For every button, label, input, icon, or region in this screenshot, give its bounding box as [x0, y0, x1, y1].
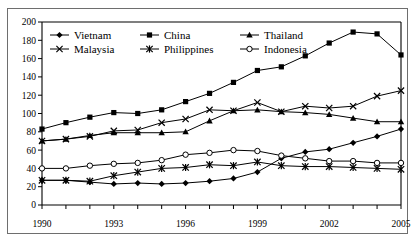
data-point-cross-x-marker: [254, 99, 260, 105]
legend-label-indonesia: Indonesia: [264, 43, 307, 55]
data-point-filled-diamond-marker: [302, 149, 308, 155]
legend-item-indonesia: Indonesia: [240, 43, 307, 55]
y-tick-label: 160: [22, 54, 37, 64]
series-line-vietnam: [42, 129, 401, 184]
y-tick-label: 0: [31, 200, 36, 210]
data-point-filled-square-marker: [374, 31, 379, 36]
data-point-filled-square-marker: [327, 40, 332, 45]
legend-label-thailand: Thailand: [264, 29, 304, 41]
data-point-filled-diamond-marker: [159, 181, 165, 187]
data-point-open-circle-marker: [350, 158, 355, 163]
y-tick-label: 120: [22, 91, 37, 101]
legend-item-malaysia: Malaysia: [50, 43, 114, 55]
data-point-filled-diamond-marker: [183, 180, 189, 186]
legend-item-thailand: Thailand: [240, 29, 304, 41]
data-point-filled-diamond-marker: [326, 146, 332, 152]
legend-item-vietnam: Vietnam: [50, 29, 112, 41]
series-philippines: [39, 158, 404, 184]
data-point-filled-square-marker: [147, 32, 152, 37]
data-point-open-circle-marker: [255, 148, 260, 153]
data-point-filled-triangle-marker: [206, 118, 212, 124]
series-thailand: [39, 107, 404, 144]
data-point-open-circle-marker: [183, 152, 188, 157]
y-tick-label: 60: [27, 146, 37, 156]
data-point-filled-square-marker: [135, 111, 140, 116]
legend-label-malaysia: Malaysia: [74, 43, 114, 55]
legend-item-china: China: [140, 29, 190, 41]
data-point-open-circle-marker: [327, 158, 332, 163]
data-point-filled-square-marker: [231, 80, 236, 85]
data-point-filled-square-marker: [63, 120, 68, 125]
y-tick-label: 200: [22, 17, 37, 27]
y-tick-label: 100: [22, 109, 37, 119]
data-point-filled-diamond-marker: [254, 169, 260, 175]
line-chart: 0204060801001201401601802001990199319961…: [0, 0, 417, 242]
data-point-filled-square-marker: [39, 126, 44, 131]
data-point-filled-diamond-marker: [206, 178, 212, 184]
y-tick-label: 80: [27, 127, 37, 137]
x-tick-label: 1990: [33, 219, 52, 229]
data-point-filled-square-marker: [87, 115, 92, 120]
data-point-filled-diamond-marker: [56, 32, 62, 38]
data-point-filled-square-marker: [159, 107, 164, 112]
data-point-open-circle-marker: [247, 46, 252, 51]
data-point-open-circle-marker: [231, 147, 236, 152]
x-tick-label: 1996: [176, 219, 195, 229]
data-point-filled-square-marker: [279, 64, 284, 69]
data-point-open-circle-marker: [63, 166, 68, 171]
x-tick-label: 1993: [104, 219, 123, 229]
data-point-open-circle-marker: [279, 153, 284, 158]
data-point-open-circle-marker: [207, 150, 212, 155]
data-point-filled-square-marker: [398, 52, 403, 57]
data-point-filled-square-marker: [111, 110, 116, 115]
data-point-open-circle-marker: [303, 156, 308, 161]
legend-label-philippines: Philippines: [164, 43, 214, 55]
data-point-filled-diamond-marker: [111, 181, 117, 187]
data-point-open-circle-marker: [398, 160, 403, 165]
y-tick-label: 40: [27, 164, 37, 174]
chart-legend: VietnamChinaThailandMalaysiaPhilippinesI…: [50, 29, 307, 55]
legend-label-china: China: [164, 29, 190, 41]
legend-label-vietnam: Vietnam: [74, 29, 112, 41]
y-tick-label: 180: [22, 36, 37, 46]
data-point-filled-diamond-marker: [374, 133, 380, 139]
x-tick-label: 2005: [392, 219, 411, 229]
data-point-open-circle-marker: [87, 163, 92, 168]
data-point-filled-diamond-marker: [398, 126, 404, 132]
data-point-filled-diamond-marker: [350, 140, 356, 146]
data-point-open-circle-marker: [374, 160, 379, 165]
legend-item-philippines: Philippines: [140, 43, 214, 55]
data-point-filled-square-marker: [183, 99, 188, 104]
chart-svg: 0204060801001201401601802001990199319961…: [0, 0, 417, 242]
y-tick-label: 20: [27, 182, 37, 192]
data-point-filled-square-marker: [207, 91, 212, 96]
x-tick-label: 2002: [320, 219, 339, 229]
data-point-filled-diamond-marker: [135, 180, 141, 186]
data-point-open-circle-marker: [159, 157, 164, 162]
y-tick-label: 140: [22, 72, 37, 82]
data-point-open-circle-marker: [39, 166, 44, 171]
data-point-filled-diamond-marker: [230, 175, 236, 181]
data-point-filled-square-marker: [255, 68, 260, 73]
data-point-open-circle-marker: [135, 160, 140, 165]
x-tick-label: 1999: [248, 219, 267, 229]
series-line-thailand: [42, 110, 401, 141]
data-point-open-circle-marker: [111, 161, 116, 166]
data-point-filled-square-marker: [351, 29, 356, 34]
